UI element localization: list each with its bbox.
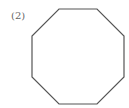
octagon-diagram [0,0,129,108]
octagon-shape [32,9,124,104]
